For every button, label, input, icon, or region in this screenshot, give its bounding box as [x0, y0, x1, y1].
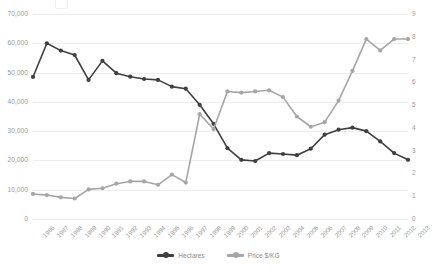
data-point-marker — [350, 69, 354, 73]
data-point-marker — [323, 133, 327, 137]
data-point-marker — [295, 153, 299, 157]
series-line — [33, 39, 408, 198]
data-point-marker — [114, 182, 118, 186]
data-point-marker — [128, 75, 132, 79]
data-point-marker — [211, 127, 215, 131]
data-point-marker — [364, 37, 368, 41]
data-point-marker — [406, 37, 410, 41]
data-point-marker — [45, 41, 49, 45]
data-point-marker — [392, 37, 396, 41]
data-point-marker — [281, 152, 285, 156]
data-point-marker — [239, 158, 243, 162]
data-point-marker — [100, 59, 104, 63]
legend-item[interactable]: Price $/KG — [227, 252, 280, 259]
data-point-marker — [336, 98, 340, 102]
legend-label: Price $/KG — [248, 252, 280, 259]
data-point-marker — [73, 196, 77, 200]
data-point-marker — [295, 114, 299, 118]
data-point-marker — [156, 78, 160, 82]
data-point-marker — [59, 195, 63, 199]
data-point-marker — [59, 49, 63, 53]
data-point-marker — [31, 75, 35, 79]
data-point-marker — [184, 180, 188, 184]
data-point-marker — [170, 172, 174, 176]
data-point-marker — [309, 125, 313, 129]
data-point-marker — [86, 187, 90, 191]
data-point-marker — [45, 193, 49, 197]
series-lines — [0, 0, 437, 271]
data-point-marker — [253, 159, 257, 163]
data-point-marker — [198, 112, 202, 116]
data-point-marker — [336, 128, 340, 132]
data-point-marker — [253, 89, 257, 93]
data-point-marker — [225, 89, 229, 93]
legend-swatch-icon — [227, 254, 244, 257]
data-point-marker — [406, 158, 410, 162]
data-point-marker — [100, 186, 104, 190]
data-point-marker — [267, 151, 271, 155]
data-point-marker — [128, 179, 132, 183]
data-point-marker — [142, 77, 146, 81]
data-point-marker — [267, 88, 271, 92]
data-point-marker — [142, 179, 146, 183]
legend-swatch-icon — [157, 254, 174, 257]
data-point-marker — [323, 120, 327, 124]
data-point-marker — [86, 78, 90, 82]
data-point-marker — [170, 85, 174, 89]
data-point-marker — [31, 192, 35, 196]
data-point-marker — [378, 48, 382, 52]
data-point-marker — [225, 146, 229, 150]
data-point-marker — [392, 151, 396, 155]
legend-item[interactable]: Hectares — [157, 252, 204, 259]
data-point-marker — [114, 71, 118, 75]
data-point-marker — [239, 90, 243, 94]
data-point-marker — [156, 183, 160, 187]
data-point-marker — [281, 95, 285, 99]
series-line — [33, 43, 408, 161]
chart-container: 010,00020,00030,00040,00050,00060,00070,… — [0, 0, 437, 271]
legend-label: Hectares — [178, 252, 204, 259]
data-point-marker — [378, 139, 382, 143]
data-point-marker — [198, 103, 202, 107]
data-point-marker — [184, 87, 188, 91]
data-point-marker — [364, 129, 368, 133]
chart-legend: HectaresPrice $/KG — [0, 252, 437, 259]
data-point-marker — [309, 147, 313, 151]
data-point-marker — [350, 126, 354, 130]
data-point-marker — [73, 53, 77, 57]
